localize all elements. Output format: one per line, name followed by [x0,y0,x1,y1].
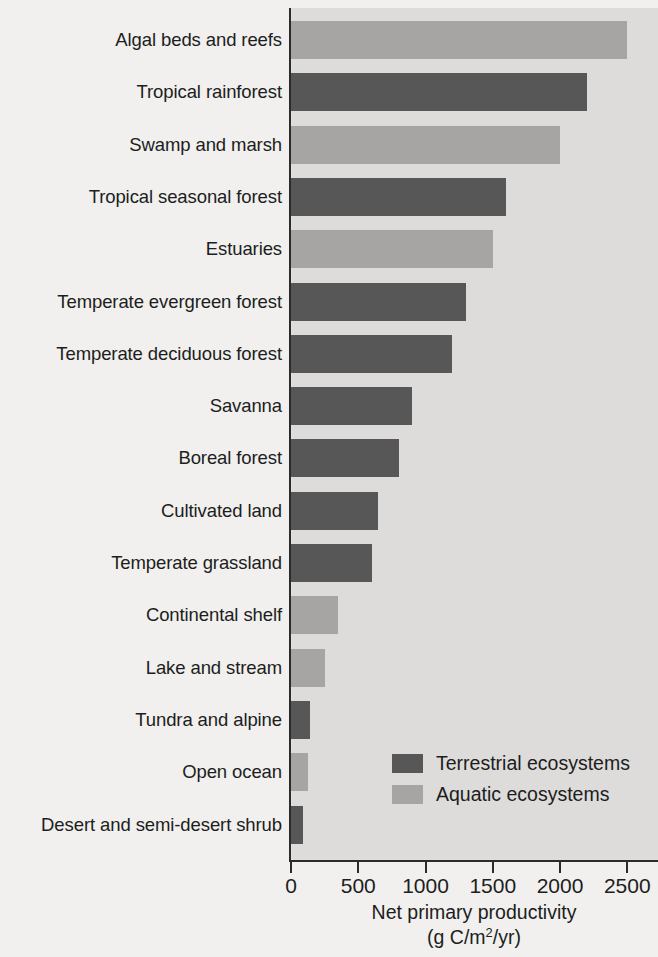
bar-terrestrial [291,701,310,739]
x-tick [492,862,494,873]
x-tick [357,862,359,873]
bar-category-label: Tropical rainforest [137,83,282,102]
bar-row: Cultivated land [0,492,658,530]
bar-terrestrial [291,544,372,582]
bar-terrestrial [291,178,506,216]
bar-row: Continental shelf [0,596,658,634]
npp-bar-chart: Algal beds and reefsTropical rainforestS… [0,0,658,957]
bar-terrestrial [291,283,466,321]
bar-category-label: Continental shelf [146,606,282,625]
bar-category-label: Temperate evergreen forest [57,292,282,311]
bar-category-label: Algal beds and reefs [115,31,282,50]
x-tick [290,862,292,873]
x-axis-line [289,860,658,862]
legend-label: Terrestrial ecosystems [436,754,630,774]
bar-terrestrial [291,387,412,425]
bar-category-label: Desert and semi-desert shrub [41,815,282,834]
bar-category-label: Savanna [210,397,282,416]
x-tick-label: 1500 [469,875,516,896]
bar-category-label: Tundra and alpine [135,711,282,730]
x-tick [425,862,427,873]
chart-legend: Terrestrial ecosystemsAquatic ecosystems [392,748,642,810]
units-prefix: (g C/m [427,926,486,948]
x-axis-title: Net primary productivity (g C/m2/yr) [290,900,658,950]
bar-terrestrial [291,806,303,844]
bar-category-label: Tropical seasonal forest [89,188,282,207]
bar-category-label: Temperate deciduous forest [56,345,282,364]
bar-row: Tropical rainforest [0,73,658,111]
bar-category-label: Boreal forest [178,449,282,468]
bar-category-label: Cultivated land [161,501,282,520]
bar-row: Boreal forest [0,439,658,477]
bar-terrestrial [291,492,378,530]
legend-label: Aquatic ecosystems [436,785,609,805]
x-tick-label: 2500 [604,875,651,896]
units-exponent: 2 [486,924,493,939]
bar-row: Lake and stream [0,649,658,687]
bar-aquatic [291,126,560,164]
bar-row: Temperate deciduous forest [0,335,658,373]
bar-terrestrial [291,73,587,111]
legend-entry-aquatic[interactable]: Aquatic ecosystems [392,779,642,810]
units-suffix: /yr) [493,926,521,948]
bar-category-label: Temperate grassland [111,554,282,573]
x-tick-label: 0 [285,875,297,896]
bar-aquatic [291,649,325,687]
bar-row: Desert and semi-desert shrub [0,806,658,844]
bar-row: Temperate evergreen forest [0,283,658,321]
bar-row: Swamp and marsh [0,126,658,164]
x-tick-label: 2000 [537,875,584,896]
bar-terrestrial [291,439,399,477]
bar-row: Savanna [0,387,658,425]
legend-swatch-terrestrial [392,754,423,773]
bar-category-label: Swamp and marsh [129,135,282,154]
legend-swatch-aquatic [392,785,423,804]
bar-terrestrial [291,335,452,373]
bar-aquatic [291,753,308,791]
bar-aquatic [291,596,338,634]
bar-aquatic [291,230,493,268]
bar-row: Estuaries [0,230,658,268]
bar-row: Tropical seasonal forest [0,178,658,216]
bar-category-label: Open ocean [182,763,282,782]
bar-category-label: Lake and stream [146,658,282,677]
x-tick-label: 1000 [402,875,449,896]
x-tick [559,862,561,873]
bar-category-label: Estuaries [206,240,282,259]
bar-row: Temperate grassland [0,544,658,582]
bar-row: Tundra and alpine [0,701,658,739]
x-axis-title-units: (g C/m2/yr) [290,925,658,950]
bar-row: Algal beds and reefs [0,21,658,59]
x-axis-title-line1: Net primary productivity [372,901,577,923]
x-tick [626,862,628,873]
bar-aquatic [291,21,627,59]
legend-entry-terrestrial[interactable]: Terrestrial ecosystems [392,748,642,779]
x-tick-label: 500 [341,875,376,896]
